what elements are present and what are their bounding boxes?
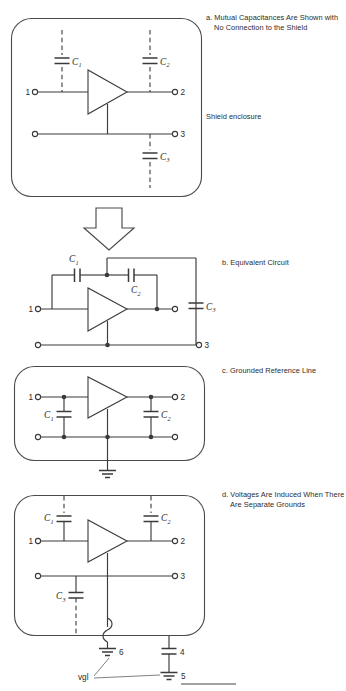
node-label-5-d: 5 — [181, 672, 186, 681]
terminal-out-b[interactable] — [172, 306, 177, 311]
down-arrow — [84, 208, 134, 250]
caption-c: c. Grounded Reference Line — [222, 366, 316, 376]
junction-dot-bottom-b — [105, 343, 110, 348]
junction-dot-c2-bot-c — [149, 435, 154, 440]
terminal-common-left-c[interactable] — [35, 434, 40, 439]
terminal-2-a[interactable] — [172, 89, 177, 94]
caption-d: d. Voltages Are Induced When There Are S… — [222, 490, 346, 509]
terminal-1-c[interactable] — [35, 394, 40, 399]
ground-symbol-c — [99, 471, 116, 478]
terminal-1-label-b: 1 — [29, 305, 34, 314]
terminal-2-d[interactable] — [172, 538, 177, 543]
terminal-3-d[interactable] — [172, 573, 177, 578]
ground-symbol-6-d — [99, 649, 116, 656]
terminal-1-d[interactable] — [35, 538, 40, 543]
terminal-2-label-a: 2 — [181, 88, 186, 97]
terminal-1-b[interactable] — [35, 306, 40, 311]
capacitor-c2-d — [144, 496, 159, 541]
terminal-common-left-b[interactable] — [35, 342, 40, 347]
junction-dot-top-b — [105, 273, 110, 278]
terminal-3-label-b: 3 — [205, 341, 210, 350]
label-c3-sub-b: 3 — [212, 306, 216, 313]
junction-dot-out-b — [155, 307, 160, 312]
terminal-2-label-d: 2 — [181, 537, 186, 546]
panel-c: C 1 C 2 1 2 — [15, 367, 205, 478]
label-vgl-d: vgl — [78, 673, 89, 682]
terminal-1-a[interactable] — [32, 89, 37, 94]
terminal-3-label-d: 3 — [181, 572, 186, 581]
terminal-1-label-a: 1 — [26, 88, 31, 97]
terminal-1-label-c: 1 — [29, 393, 34, 402]
capacitor-c3-a — [143, 134, 158, 188]
shield-enclosure-d — [15, 496, 205, 636]
label-c2-sub-d: 2 — [168, 518, 171, 525]
caption-shield-enclosure: Shield enclosure — [206, 112, 261, 122]
capacitor-c3-d — [69, 576, 84, 636]
terminal-common-right-c[interactable] — [172, 434, 177, 439]
figure-canvas: .w { stroke:#3a3a3a; stroke-width:1.15; … — [0, 0, 346, 691]
label-c3-sub-d: 3 — [62, 596, 66, 603]
label-c1-sub-a: 1 — [79, 61, 82, 68]
label-c1-sub-d: 1 — [51, 518, 54, 525]
panel-d: C 1 C 2 C 3 — [15, 496, 237, 685]
shield-enclosure-a — [12, 19, 202, 197]
leader-vgl-to-6-d — [94, 658, 109, 676]
caption-b: b. Equivalent Circuit — [222, 258, 289, 268]
terminal-2-label-c: 2 — [181, 393, 186, 402]
label-c1-sub-c: 1 — [51, 415, 54, 422]
caption-a: a. Mutual Capacitances Are Shown with No… — [206, 13, 346, 32]
node-label-6-d: 6 — [119, 648, 124, 657]
leader-vgl-to-5-d — [94, 675, 160, 678]
terminal-3-label-a: 3 — [181, 130, 186, 139]
junction-dot-c2-top-c — [149, 395, 154, 400]
terminal-1-label-d: 1 — [29, 537, 34, 546]
capacitor-c2-a — [143, 30, 158, 92]
junction-dot-c1-top-c — [62, 395, 67, 400]
panel-b: C 1 C 2 C 3 1 3 — [29, 254, 216, 350]
terminal-2-c[interactable] — [172, 394, 177, 399]
label-c1-sub-b: 1 — [76, 259, 79, 266]
label-c3-sub-a: 3 — [166, 156, 170, 163]
panel-a: C 1 C 2 C 3 1 2 — [12, 19, 202, 197]
label-c2-sub-b: 2 — [138, 290, 141, 297]
node-label-4-d: 4 — [180, 648, 185, 657]
label-c2-sub-c: 2 — [168, 415, 171, 422]
shield-enclosure-c — [15, 367, 205, 461]
terminal-3-a[interactable] — [172, 131, 177, 136]
capacitor-c1-d — [57, 496, 72, 541]
terminal-3-b[interactable] — [196, 342, 201, 347]
capacitor-c1-a — [55, 30, 70, 92]
terminal-common-left-a[interactable] — [32, 131, 37, 136]
junction-dot-gnd-c — [105, 435, 110, 440]
ground-symbol-5-d — [161, 673, 178, 680]
label-c2-sub-a: 2 — [167, 61, 170, 68]
junction-dot-c1-bot-c — [62, 435, 67, 440]
terminal-common-left-d[interactable] — [35, 573, 40, 578]
